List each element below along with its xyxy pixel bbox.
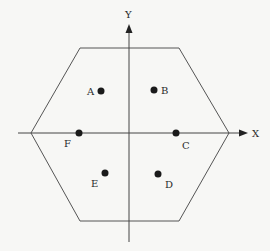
- point-d-dot: [155, 171, 162, 178]
- point-b-label: B: [161, 85, 168, 96]
- y-axis-label: Y: [124, 9, 132, 20]
- points-group: ABCDEF: [64, 85, 190, 190]
- point-f-label: F: [64, 138, 71, 149]
- y-axis-arrow-icon: [126, 24, 133, 33]
- point-c-label: C: [182, 140, 190, 151]
- hexagon-diagram: X Y ABCDEF: [0, 0, 270, 251]
- point-d-label: D: [165, 179, 173, 190]
- point-a-dot: [98, 88, 105, 95]
- point-c-dot: [173, 130, 180, 137]
- x-axis-arrow-icon: [239, 130, 248, 137]
- point-a-label: A: [86, 86, 95, 97]
- x-axis-label: X: [252, 128, 260, 139]
- point-e-label: E: [91, 178, 98, 189]
- point-b-dot: [151, 87, 158, 94]
- point-f-dot: [76, 130, 83, 137]
- hexagon-outline: [31, 48, 229, 221]
- point-e-dot: [102, 170, 109, 177]
